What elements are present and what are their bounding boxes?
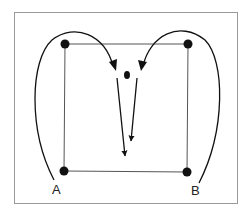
node-top-left (61, 40, 70, 49)
node-center (124, 71, 130, 79)
left-loop-arrowhead-icon (109, 59, 117, 71)
right-loop-arrowhead-icon (138, 60, 147, 71)
diagram-canvas: A B (0, 0, 252, 217)
outer-frame (15, 13, 238, 204)
left-loop-curve (35, 32, 113, 180)
inner-square (64, 44, 188, 172)
left-down-arrow (117, 78, 125, 156)
right-loop-curve (143, 31, 220, 183)
node-bottom-left (60, 167, 69, 176)
node-bottom-right (183, 168, 192, 177)
right-down-arrow (131, 78, 137, 141)
node-top-right (184, 40, 193, 49)
label-b: B (191, 183, 200, 198)
label-a: A (52, 182, 61, 197)
